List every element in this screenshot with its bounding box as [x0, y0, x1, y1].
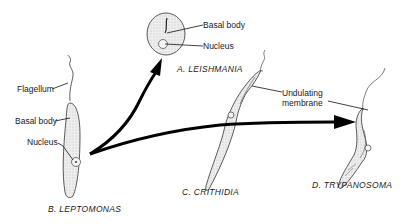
leptomonas-cell — [52, 55, 81, 198]
caption-leishmania: A. LEISHMANIA — [177, 64, 243, 74]
caption-crithidia: C. CRITHIDIA — [182, 187, 239, 197]
label-leptomonas-basal-body: Basal body — [15, 116, 57, 126]
label-undulating-line1: Undulating — [282, 88, 323, 98]
label-leptomonas-flagellum: Flagellum — [17, 84, 54, 94]
caption-leptomonas: B. LEPTOMONAS — [48, 204, 121, 214]
label-undulating-membrane: Undulating membrane — [282, 88, 323, 108]
label-leishmania-basal-body: Basal body — [203, 20, 245, 30]
caption-trypanosoma: D. TRYPANOSOMA — [312, 180, 392, 190]
label-undulating-line2: membrane — [282, 98, 323, 108]
label-leishmania-nucleus: Nucleus — [203, 41, 234, 51]
crithidia-nucleus — [228, 112, 234, 118]
leishmania-cell — [147, 13, 203, 55]
leptomonas-flagellum — [68, 55, 73, 101]
arrow-leptomonas-to-leishmania — [90, 58, 162, 154]
label-leptomonas-nucleus: Nucleus — [27, 137, 58, 147]
trypanosoma-nucleus — [365, 145, 371, 151]
trypanosoma-cell — [338, 68, 385, 188]
